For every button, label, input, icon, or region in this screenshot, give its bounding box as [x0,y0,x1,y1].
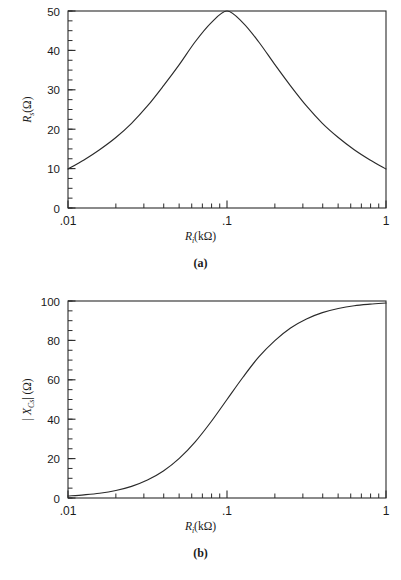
data-curve [68,303,386,496]
svg-text:40: 40 [47,414,60,426]
svg-text:40: 40 [47,45,60,57]
panel-caption-b: (b) [0,546,401,561]
svg-text:60: 60 [47,374,60,386]
data-curve [68,11,386,169]
svg-text:1: 1 [383,214,390,228]
svg-text:.01: .01 [60,214,77,228]
plot-area-b: .01.11020406080100 [0,290,401,522]
svg-text:80: 80 [47,335,60,347]
panel-caption-a: (a) [0,256,401,271]
figure-panel-a: Rs(Ω) .01.1101020304050 Ri(kΩ) (a) [0,0,401,290]
svg-text:0: 0 [54,203,60,215]
svg-text:10: 10 [47,163,60,175]
plot-area-a: .01.1101020304050 [0,0,401,232]
svg-text:0: 0 [54,493,60,505]
svg-text:.01: .01 [60,504,77,518]
x-axis-label-a: Ri(kΩ) [0,230,401,245]
svg-text:100: 100 [41,296,60,308]
svg-text:50: 50 [47,6,60,18]
svg-text:30: 30 [47,84,60,96]
svg-text:20: 20 [47,453,60,465]
svg-text:.1: .1 [222,504,232,518]
svg-text:20: 20 [47,124,60,136]
figure-panel-b: | XCs| (Ω) .01.11020406080100 Ri(kΩ) (b) [0,290,401,580]
svg-text:1: 1 [383,504,390,518]
svg-text:.1: .1 [222,214,232,228]
x-axis-label-b: Ri(kΩ) [0,520,401,535]
